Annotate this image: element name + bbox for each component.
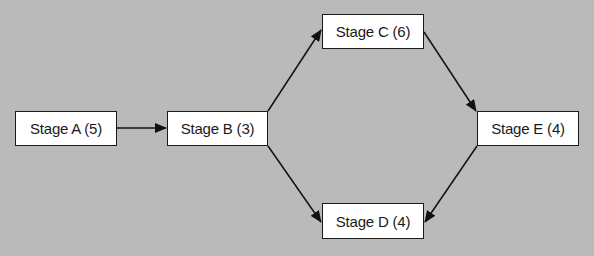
node-stage-d-label: Stage D (4) [336,213,411,230]
node-stage-e-label: Stage E (4) [491,120,565,137]
node-stage-e: Stage E (4) [477,111,579,146]
node-stage-c-label: Stage C (6) [336,23,411,40]
node-stage-a: Stage A (5) [15,111,117,146]
edge-b-to-d [268,146,321,222]
edge-b-to-c [268,30,321,111]
node-stage-b: Stage B (3) [167,111,268,146]
node-stage-a-label: Stage A (5) [30,120,102,137]
edge-e-to-d [425,146,477,222]
flow-diagram: Stage A (5) Stage B (3) Stage C (6) Stag… [0,0,594,256]
node-stage-b-label: Stage B (3) [181,120,255,137]
node-stage-d: Stage D (4) [322,203,424,239]
node-stage-c: Stage C (6) [322,14,424,49]
edge-c-to-e [424,32,476,111]
